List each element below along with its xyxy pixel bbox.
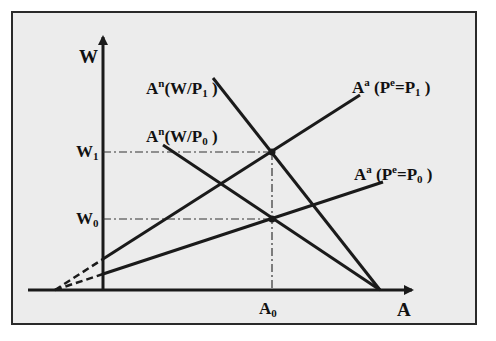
demand-p1-label: An(W/P1 ) bbox=[146, 78, 218, 99]
a0-label: A0 bbox=[259, 300, 277, 319]
x-axis-label: A bbox=[397, 300, 411, 319]
supply-p0-label: Aa (Pe=P0 ) bbox=[354, 164, 432, 185]
w1-label: W1 bbox=[76, 143, 99, 162]
equilibrium-point-1 bbox=[269, 149, 276, 156]
supply-curve-p1 bbox=[103, 95, 360, 259]
w0-label: W0 bbox=[76, 210, 99, 229]
supply-curve-p0 bbox=[103, 182, 383, 274]
supply-curve-p1-dashed bbox=[55, 259, 103, 290]
y-axis-label: W bbox=[79, 47, 98, 66]
equilibrium-point-0 bbox=[269, 216, 276, 223]
supply-curve-p0-dashed bbox=[55, 274, 103, 290]
demand-p0-label: An(W/P0 ) bbox=[146, 126, 218, 147]
supply-p1-label: Aa (Pe=P1 ) bbox=[352, 77, 430, 98]
